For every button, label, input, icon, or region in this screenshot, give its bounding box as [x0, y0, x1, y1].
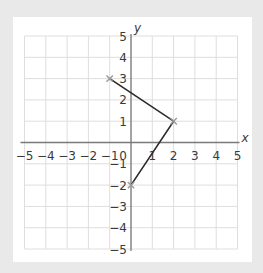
- y-axis-label: y: [133, 21, 142, 35]
- x-tick-label: −2: [80, 149, 98, 163]
- y-tick-label: −4: [109, 221, 127, 235]
- y-tick-label: −1: [109, 157, 127, 171]
- x-tick-label: 4: [212, 149, 220, 163]
- x-tick-label: 5: [234, 149, 242, 163]
- x-tick-label: −3: [58, 149, 76, 163]
- y-tick-label: −3: [109, 200, 127, 214]
- x-tick-label: 3: [191, 149, 199, 163]
- y-tick-label: 4: [119, 51, 127, 65]
- y-tick-label: −2: [109, 179, 127, 193]
- x-tick-label: −4: [37, 149, 55, 163]
- x-tick-label: 1: [148, 149, 156, 163]
- y-tick-label: 3: [119, 72, 127, 86]
- y-tick-label: 2: [119, 93, 127, 107]
- x-tick-label: −5: [16, 149, 34, 163]
- x-tick-label: 2: [170, 149, 178, 163]
- x-axis-label: x: [241, 131, 250, 145]
- y-tick-label: −5: [109, 243, 127, 257]
- y-tick-label: 1: [119, 115, 127, 129]
- data-series: [107, 75, 177, 188]
- axes: [21, 34, 240, 251]
- coordinate-plane-chart: −5−4−3−2−1012345−5−4−3−2−112345 x y: [0, 0, 263, 273]
- y-tick-label: 5: [119, 30, 127, 44]
